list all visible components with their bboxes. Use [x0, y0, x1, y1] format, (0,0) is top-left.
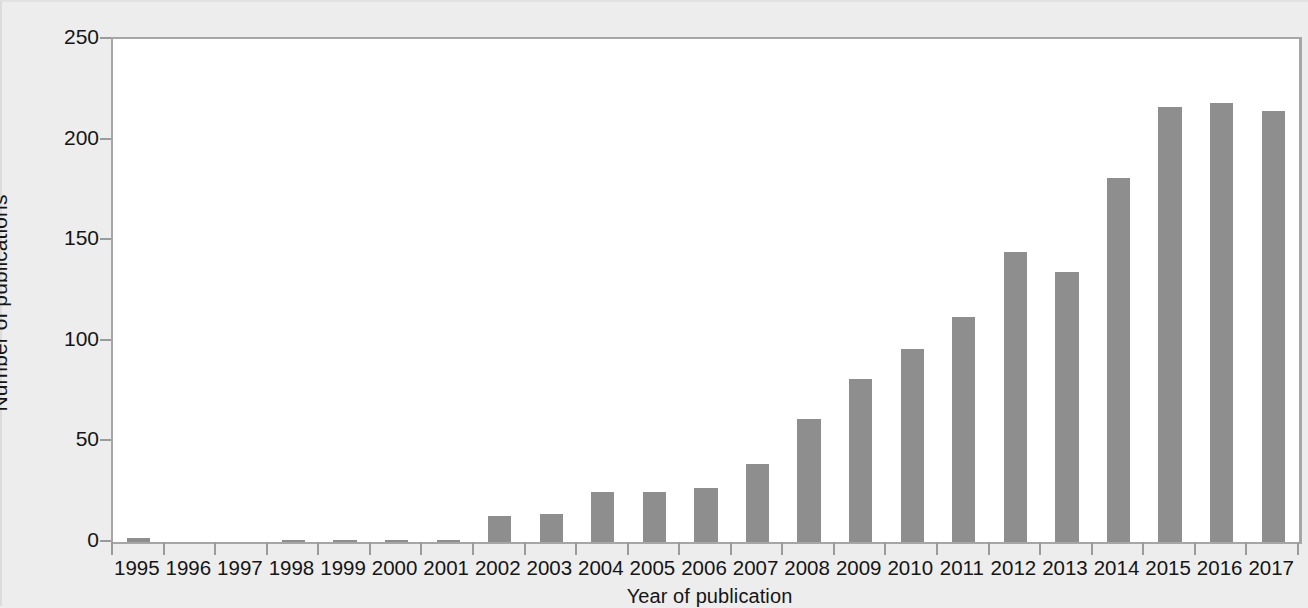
bar-slot	[835, 39, 887, 542]
x-axis-tick	[369, 542, 371, 555]
y-axis-tick-label: 50	[9, 427, 99, 451]
x-axis-tick-label: 1998	[269, 556, 315, 580]
x-axis-tick	[317, 542, 319, 555]
x-axis-tick-label: 2006	[681, 556, 727, 580]
x-axis-tick	[884, 542, 886, 555]
x-axis-tick	[1245, 542, 1247, 555]
bar	[1210, 103, 1233, 542]
x-axis-tick-label: 2014	[1094, 556, 1140, 580]
bar-slot	[1196, 39, 1248, 542]
bar	[746, 464, 769, 542]
x-axis-tick-label: 2003	[526, 556, 572, 580]
bar	[540, 514, 563, 542]
x-axis-tick	[1142, 542, 1144, 555]
bar-slot	[629, 39, 681, 542]
x-axis-tick	[266, 542, 268, 555]
x-axis-tick-label: 2002	[475, 556, 521, 580]
x-axis-tick	[1194, 542, 1196, 555]
bar	[1107, 178, 1130, 542]
x-axis-tick-label: 2013	[1042, 556, 1088, 580]
x-axis-tick	[163, 542, 165, 555]
bar-slot	[268, 39, 320, 542]
bar-slot	[1247, 39, 1299, 542]
y-axis-title: Number of publications	[0, 0, 66, 606]
bar	[1158, 107, 1181, 542]
x-axis-tick-label: 2016	[1197, 556, 1243, 580]
bar	[1262, 111, 1285, 542]
bar	[797, 419, 820, 542]
x-axis-tick-label: 1999	[320, 556, 366, 580]
x-axis-tick	[936, 542, 938, 555]
x-axis-tick-label: 2012	[991, 556, 1037, 580]
bar	[333, 540, 356, 542]
y-axis-tick-label: 0	[9, 528, 99, 552]
bar-slot	[216, 39, 268, 542]
y-axis-tick-label: 200	[9, 126, 99, 150]
x-axis-tick-label: 2017	[1248, 556, 1294, 580]
bar	[127, 538, 150, 542]
y-axis-tick	[100, 540, 111, 542]
bar	[849, 379, 872, 542]
bar	[488, 516, 511, 542]
y-axis-tick	[100, 37, 111, 39]
x-axis-tick-label: 1995	[114, 556, 160, 580]
bar-slot	[422, 39, 474, 542]
bar	[901, 349, 924, 542]
y-axis-tick	[100, 439, 111, 441]
bar	[385, 540, 408, 542]
bar-slot	[783, 39, 835, 542]
x-axis-tick	[781, 542, 783, 555]
bar	[1055, 272, 1078, 542]
y-axis-tick	[100, 339, 111, 341]
bar	[694, 488, 717, 542]
x-axis-tick-label: 2004	[578, 556, 624, 580]
x-axis-tick	[1039, 542, 1041, 555]
bar	[591, 492, 614, 542]
bar-slot	[577, 39, 629, 542]
bar-slot	[319, 39, 371, 542]
x-axis-tick-label: 2001	[423, 556, 469, 580]
bar-slot	[165, 39, 217, 542]
x-axis-tick	[730, 542, 732, 555]
bar-slot	[1041, 39, 1093, 542]
x-axis-tick-label: 2010	[887, 556, 933, 580]
x-axis-tick-label: 2011	[940, 556, 984, 580]
bar-slot	[113, 39, 165, 542]
plot-area	[111, 37, 1302, 544]
x-axis-tick	[627, 542, 629, 555]
bar	[437, 540, 460, 542]
y-axis-tick-label: 250	[9, 25, 99, 49]
bar	[282, 540, 305, 542]
x-axis-tick	[214, 542, 216, 555]
bar-slot	[526, 39, 578, 542]
x-axis-tick-label: 2007	[733, 556, 779, 580]
x-axis-tick-label: 2005	[630, 556, 676, 580]
x-axis-tick-label: 1997	[217, 556, 263, 580]
x-axis-tick-label: 2008	[784, 556, 830, 580]
x-axis-tick	[833, 542, 835, 555]
x-axis-tick	[988, 542, 990, 555]
x-axis-tick	[111, 542, 113, 555]
bar-slot	[938, 39, 990, 542]
bar-series	[113, 39, 1299, 542]
bar-slot	[474, 39, 526, 542]
bar-slot	[371, 39, 423, 542]
x-axis-tick	[472, 542, 474, 555]
y-axis-tick	[100, 138, 111, 140]
x-axis-tick-label: 1996	[166, 556, 212, 580]
x-axis-tick	[420, 542, 422, 555]
bar-slot	[680, 39, 732, 542]
x-axis-tick	[575, 542, 577, 555]
y-axis-tick-label: 150	[9, 226, 99, 250]
x-axis-tick	[1091, 542, 1093, 555]
bar	[1004, 252, 1027, 542]
bar	[643, 492, 666, 542]
bar-slot	[1144, 39, 1196, 542]
bar-slot	[886, 39, 938, 542]
x-axis-tick	[1297, 542, 1299, 555]
x-axis-tick	[524, 542, 526, 555]
y-axis-tick	[100, 238, 111, 240]
y-axis-tick-label: 100	[9, 327, 99, 351]
x-axis-tick-label: 2015	[1145, 556, 1191, 580]
